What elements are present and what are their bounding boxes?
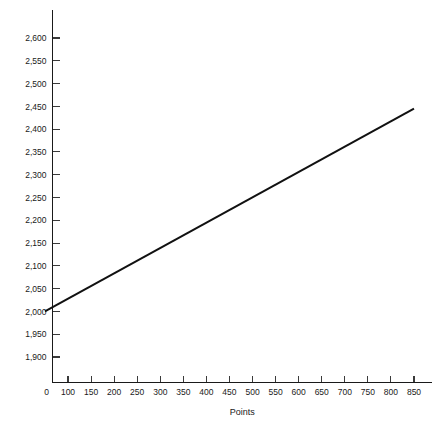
data-series (45, 109, 414, 312)
x-tick-label: 600 (292, 387, 306, 397)
y-tick-label: 2,300 (25, 170, 47, 180)
x-tick-label: 450 (222, 387, 236, 397)
x-tick-label: 800 (384, 387, 398, 397)
chart-container: 1,9001,9502,0002,0502,1002,1502,2002,250… (0, 0, 448, 435)
y-tick-label: 2,600 (25, 33, 47, 43)
y-tick-label: 2,250 (25, 193, 47, 203)
y-tick-label: 2,000 (25, 307, 47, 317)
y-tick-label: 2,500 (25, 79, 47, 89)
x-tick-label: 250 (130, 387, 144, 397)
y-tick-label: 2,200 (25, 215, 47, 225)
y-tick-label: 2,050 (25, 284, 47, 294)
y-tick-label: 2,350 (25, 147, 47, 157)
series-line (45, 109, 414, 312)
x-tick-label: 200 (107, 387, 121, 397)
x-tick-label: 0 (44, 387, 49, 397)
x-tick-label: 750 (361, 387, 375, 397)
x-tick-label: 650 (315, 387, 329, 397)
y-tick-label: 2,100 (25, 261, 47, 271)
y-tick-label: 2,150 (25, 238, 47, 248)
x-tick-label: 300 (153, 387, 167, 397)
y-tick-label: 2,550 (25, 56, 47, 66)
y-tick-label: 1,950 (25, 329, 47, 339)
y-tick-label: 1,900 (25, 352, 47, 362)
y-tick-label: 2,450 (25, 102, 47, 112)
x-tick-label: 500 (245, 387, 259, 397)
x-tick-label: 350 (176, 387, 190, 397)
x-axis-ticks: 0100150200250300350400450500550600650700… (44, 376, 421, 397)
x-tick-label: 100 (61, 387, 75, 397)
y-axis-ticks: 1,9001,9502,0002,0502,1002,1502,2002,250… (25, 33, 59, 362)
x-tick-label: 550 (269, 387, 283, 397)
x-tick-label: 400 (199, 387, 213, 397)
line-chart: 1,9001,9502,0002,0502,1002,1502,2002,250… (0, 0, 448, 435)
x-tick-label: 850 (407, 387, 421, 397)
x-tick-label: 150 (84, 387, 98, 397)
x-axis-title: Points (230, 407, 256, 417)
y-tick-label: 2,400 (25, 124, 47, 134)
x-tick-label: 700 (338, 387, 352, 397)
